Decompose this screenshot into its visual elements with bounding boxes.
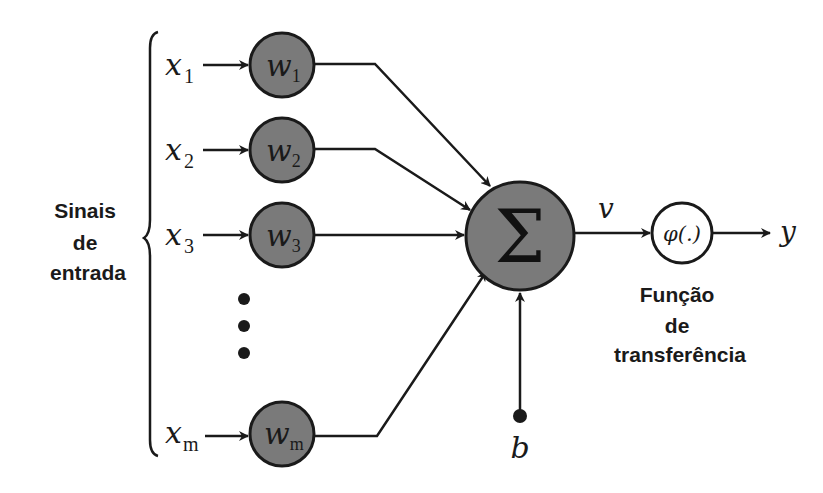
edge-w2-sum — [314, 149, 470, 210]
input-row-1: x1 w1 — [165, 33, 490, 186]
transfer-function-caption: Função de transferência — [614, 283, 746, 366]
input-row-m: xm wm — [165, 272, 486, 466]
edge-wm-sum — [314, 272, 486, 436]
ellipsis-dots — [238, 293, 250, 359]
sigma-symbol: Σ — [495, 195, 546, 279]
induced-field-label: v — [598, 192, 614, 225]
input-x2: x2 — [165, 132, 194, 172]
input-x3: x3 — [165, 217, 194, 257]
output-label: y — [778, 215, 797, 248]
activation-function-label: φ(.) — [663, 222, 701, 246]
input-row-3: x3 w3 — [165, 203, 464, 267]
input-brace — [144, 32, 158, 456]
input-xm: xm — [165, 415, 199, 455]
bias-label: b — [510, 430, 529, 465]
bias-dot — [513, 409, 527, 423]
neuron-diagram: Sinais de entrada x1 w1 x2 w2 x3 — [0, 0, 823, 493]
input-signals-label: Sinais de entrada — [50, 199, 126, 284]
input-x1: x1 — [165, 47, 194, 87]
input-row-2: x2 w2 — [165, 118, 470, 210]
